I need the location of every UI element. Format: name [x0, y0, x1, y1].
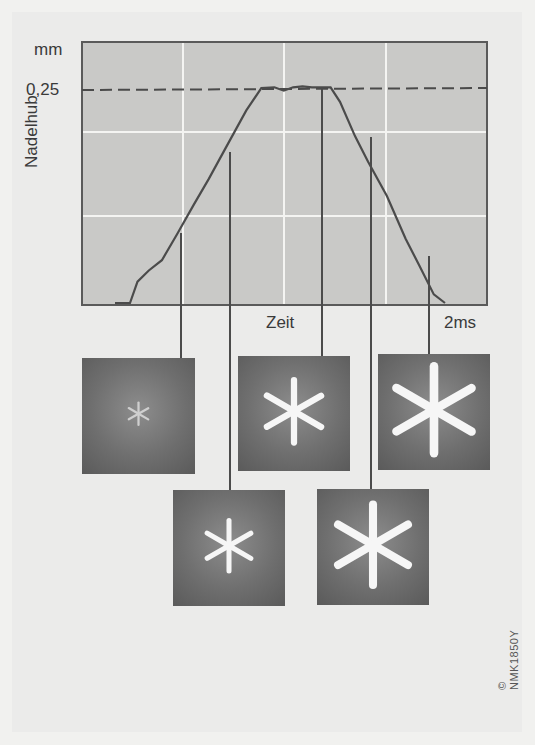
spray-jets-icon	[378, 354, 490, 470]
spray-photo-5	[317, 489, 429, 605]
spray-photo-4	[173, 490, 285, 606]
x-end-label: 2ms	[444, 313, 476, 333]
spray-jets-icon	[238, 356, 350, 471]
figure-code-label: © NMK1850Y	[496, 630, 520, 690]
y-axis-label: Nadelhub	[22, 95, 42, 168]
y-unit-label: mm	[34, 40, 62, 60]
spray-photo-3	[378, 354, 490, 470]
spray-jets-icon	[317, 489, 429, 605]
spray-jets-icon	[82, 358, 195, 474]
spray-photo-2	[238, 356, 350, 471]
spray-photo-1	[82, 358, 195, 474]
spray-jets-icon	[173, 490, 285, 606]
x-axis-label: Zeit	[266, 313, 294, 333]
